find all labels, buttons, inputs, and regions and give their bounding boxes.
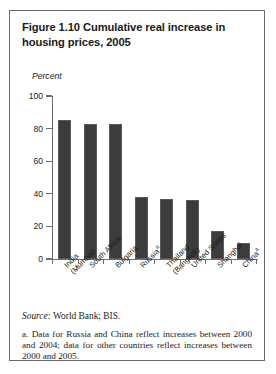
y-tick-label-60: 60 xyxy=(33,156,43,166)
x-tick xyxy=(52,260,53,264)
bar xyxy=(58,120,71,259)
y-tick-label-40: 40 xyxy=(33,189,43,199)
y-tick-label-0: 0 xyxy=(38,254,43,264)
bar xyxy=(84,124,97,259)
source-line: Source: World Bank; BIS. xyxy=(22,311,252,323)
y-tick-label-20: 20 xyxy=(33,221,43,231)
figure-notes: Source: World Bank; BIS. a. Data for Rus… xyxy=(22,311,252,363)
source-label: Source: xyxy=(22,311,51,321)
figure-title: Figure 1.10 Cumulative real increase in … xyxy=(22,20,250,49)
chart-plot-area: 020406080100 India(Mumbai)South AfricaBu… xyxy=(30,86,262,306)
figure-panel: Figure 1.10 Cumulative real increase in … xyxy=(9,10,265,361)
y-tick-label-100: 100 xyxy=(29,91,43,101)
y-axis-unit-label: Percent xyxy=(32,71,62,81)
y-tick-label-80: 80 xyxy=(33,124,43,134)
footnote-a: a. Data for Russia and China reflect inc… xyxy=(22,329,252,363)
source-text: World Bank; BIS. xyxy=(51,311,120,321)
